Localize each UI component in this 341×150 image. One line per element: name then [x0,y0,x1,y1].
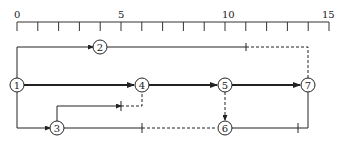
edge-1-2 [17,47,93,78]
node-5: 5 [218,78,232,92]
node-1: 1 [10,78,24,92]
node-4: 4 [135,78,149,92]
edge-1-3 [17,92,50,128]
network-diagram: 051015 1 2 3 4 5 6 [0,0,341,150]
time-scale-labels: 051015 [14,9,335,20]
edges [17,43,308,133]
time-scale [17,22,329,31]
svg-text:7: 7 [305,80,311,91]
svg-text:6: 6 [222,123,228,134]
scale-label: 10 [222,9,235,20]
node-3: 3 [50,121,64,135]
nodes: 1 2 3 4 5 6 7 [10,40,315,135]
svg-text:5: 5 [222,80,228,91]
scale-label: 0 [14,9,20,20]
scale-label: 5 [118,9,124,20]
svg-text:3: 3 [54,123,60,134]
svg-text:1: 1 [14,80,20,91]
edge-6-7-rise [298,92,308,128]
edge-3-4-dashed [121,92,142,106]
node-2: 2 [93,40,107,54]
edge-2-7-dashed [246,47,308,78]
node-7: 7 [301,78,315,92]
svg-text:2: 2 [97,42,103,53]
node-6: 6 [218,121,232,135]
scale-label: 15 [322,9,335,20]
edge-3-4-solid [57,106,121,121]
svg-text:4: 4 [139,80,145,91]
